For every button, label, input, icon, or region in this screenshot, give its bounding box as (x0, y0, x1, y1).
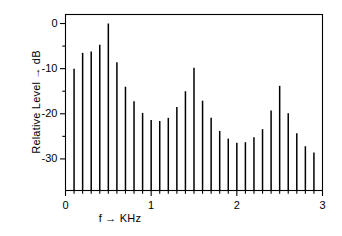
y-tick-label: -20 (42, 107, 58, 119)
y-tick-label: 0 (51, 17, 57, 29)
x-tick-label: 0 (46, 199, 86, 211)
x-tick-label: 3 (303, 199, 342, 211)
y-axis-ticks (60, 24, 66, 159)
x-tick-label: 1 (131, 199, 171, 211)
x-axis-label: f → KHz (60, 212, 180, 224)
y-axis-label: Relative Level → dB (30, 22, 42, 182)
spectrum-figure: Relative Level → dB f → KHz 0-10-20-30 0… (0, 0, 342, 236)
y-tick-label: -30 (42, 152, 58, 164)
y-tick-label: -10 (42, 62, 58, 74)
spectrum-stems (74, 24, 314, 191)
x-axis-ticks (66, 191, 323, 197)
x-tick-label: 2 (217, 199, 257, 211)
